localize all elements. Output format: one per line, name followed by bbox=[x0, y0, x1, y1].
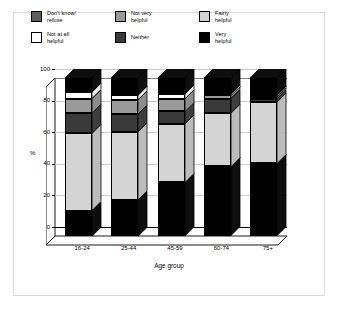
legend-swatch-dontknow bbox=[31, 11, 42, 22]
bar-segment-very bbox=[65, 211, 92, 236]
bar-top-face bbox=[65, 69, 103, 80]
y-tick-label: 0 bbox=[28, 224, 50, 230]
legend-label-notatall: Not at all helpful bbox=[47, 31, 69, 44]
bar-segment-notvery bbox=[111, 100, 138, 114]
legend-swatch-very bbox=[199, 32, 210, 43]
legend-label-notvery: Not very helpful bbox=[131, 10, 152, 23]
bar-segment-notatall bbox=[158, 94, 185, 99]
bar-segment-notvery bbox=[204, 95, 231, 98]
y-axis-title: % bbox=[30, 150, 35, 156]
bar-60-74[interactable] bbox=[204, 78, 231, 236]
bar-segment-fairly bbox=[65, 133, 92, 210]
legend-label-very: Very helpful bbox=[215, 31, 232, 44]
x-tick-label-16-24: 16-24 bbox=[57, 245, 107, 251]
legend-item-very: Very helpful bbox=[199, 27, 283, 48]
plot-area bbox=[55, 78, 287, 236]
bar-segment-notvery bbox=[158, 99, 185, 112]
bar-segment-very bbox=[111, 200, 138, 236]
y-tick-label: 20 bbox=[28, 192, 50, 198]
bar-25-44[interactable] bbox=[111, 78, 138, 236]
x-tick-label-45-59: 45-59 bbox=[150, 245, 200, 251]
bar-segment-very bbox=[204, 166, 231, 236]
y-tick-mark bbox=[52, 164, 55, 165]
bar-segment-neither bbox=[250, 99, 277, 102]
y-tick-label: 40 bbox=[28, 160, 50, 166]
legend-swatch-fairly bbox=[199, 11, 210, 22]
legend-label-fairly: Fairly helpful bbox=[215, 10, 232, 23]
y-tick-mark bbox=[52, 227, 55, 228]
chart-legend: Don't know/ refuse Not very helpful Fair… bbox=[31, 6, 283, 48]
bar-segment-fairly bbox=[204, 113, 231, 167]
bar-segment-notatall bbox=[250, 95, 277, 97]
bar-75+[interactable] bbox=[250, 78, 277, 236]
bar-segment-notvery bbox=[65, 99, 92, 113]
bar-45-59[interactable] bbox=[158, 78, 185, 236]
bar-segment-notatall bbox=[65, 92, 92, 98]
bar-segment-neither bbox=[65, 113, 92, 134]
legend-label-dontknow: Don't know/ refuse bbox=[47, 10, 76, 23]
bar-side-face bbox=[277, 154, 288, 238]
y-tick-mark bbox=[52, 132, 55, 133]
chart-figure: Don't know/ refuse Not very helpful Fair… bbox=[0, 0, 338, 309]
legend-item-dontknow: Don't know/ refuse bbox=[31, 6, 115, 27]
bar-top-face bbox=[204, 69, 242, 80]
bar-segment-neither bbox=[158, 111, 185, 124]
y-tick-label: 60 bbox=[28, 129, 50, 135]
bar-segment-dontknow bbox=[250, 78, 277, 95]
y-tick-mark bbox=[52, 101, 55, 102]
bar-top-face bbox=[250, 69, 288, 80]
legend-item-fairly: Fairly helpful bbox=[199, 6, 283, 27]
bar-segment-dontknow bbox=[158, 78, 185, 94]
legend-item-notvery: Not very helpful bbox=[115, 6, 199, 27]
legend-swatch-neither bbox=[115, 32, 126, 43]
bar-segment-very bbox=[250, 163, 277, 236]
bar-segment-dontknow bbox=[204, 78, 231, 94]
x-axis-title: Age group bbox=[0, 262, 338, 269]
bar-segment-fairly bbox=[158, 124, 185, 182]
bar-segment-notatall bbox=[111, 95, 138, 100]
bar-16-24[interactable] bbox=[65, 78, 92, 236]
y-tick-mark bbox=[52, 69, 55, 70]
bar-segment-neither bbox=[111, 114, 138, 131]
bar-top-face bbox=[111, 69, 149, 80]
bar-segment-dontknow bbox=[65, 78, 92, 92]
x-tick-label-75+: 75+ bbox=[243, 245, 293, 251]
y-tick-mark bbox=[52, 195, 55, 196]
legend-label-neither: Neither bbox=[131, 34, 149, 40]
bar-segment-fairly bbox=[250, 102, 277, 164]
y-tick-label: 100 bbox=[28, 66, 50, 72]
legend-swatch-notvery bbox=[115, 11, 126, 22]
bar-top-face bbox=[158, 69, 196, 80]
bar-side-face bbox=[231, 157, 242, 238]
legend-item-neither: Neither bbox=[115, 27, 199, 48]
bar-side-face bbox=[92, 124, 103, 212]
legend-swatch-notatall bbox=[31, 32, 42, 43]
bar-segment-notatall bbox=[204, 94, 231, 96]
x-tick-label-25-44: 25-44 bbox=[104, 245, 154, 251]
bar-segment-neither bbox=[204, 99, 231, 113]
bar-segment-fairly bbox=[111, 132, 138, 200]
bar-segment-dontknow bbox=[111, 78, 138, 95]
bar-side-face bbox=[138, 123, 149, 202]
legend-item-notatall: Not at all helpful bbox=[31, 27, 115, 48]
bar-segment-very bbox=[158, 182, 185, 236]
x-tick-label-60-74: 60-74 bbox=[196, 245, 246, 251]
y-tick-label: 80 bbox=[28, 97, 50, 103]
